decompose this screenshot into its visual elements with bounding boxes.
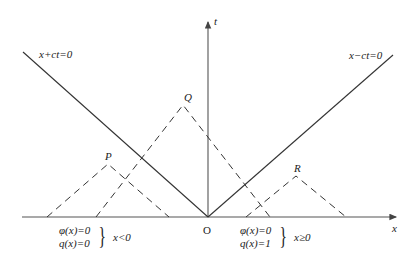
left-light-line — [23, 52, 208, 217]
right-brace: } — [279, 223, 286, 249]
left-q-condition: q(x)=0 — [59, 238, 90, 249]
right-light-line-label: x−ct=0 — [349, 50, 382, 61]
origin-label: O — [203, 225, 211, 236]
left-light-line-label: x+ct=0 — [39, 49, 72, 60]
t-axis-label: t — [214, 16, 217, 27]
cone-R — [246, 176, 346, 217]
right-domain: x≥0 — [294, 232, 310, 243]
right-light-line — [208, 55, 393, 217]
cone-Q — [96, 105, 270, 217]
point-R-label: R — [294, 163, 301, 174]
point-P-label: P — [105, 151, 112, 162]
left-brace: } — [98, 223, 105, 249]
left-phi-condition: φ(x)=0 — [59, 225, 90, 236]
right-q-condition: q(x)=1 — [240, 238, 271, 249]
right-phi-condition: φ(x)=0 — [240, 225, 271, 236]
left-domain: x<0 — [113, 232, 131, 243]
x-axis-label: x — [392, 223, 397, 234]
cone-P — [47, 164, 169, 217]
point-Q-label: Q — [184, 92, 192, 103]
